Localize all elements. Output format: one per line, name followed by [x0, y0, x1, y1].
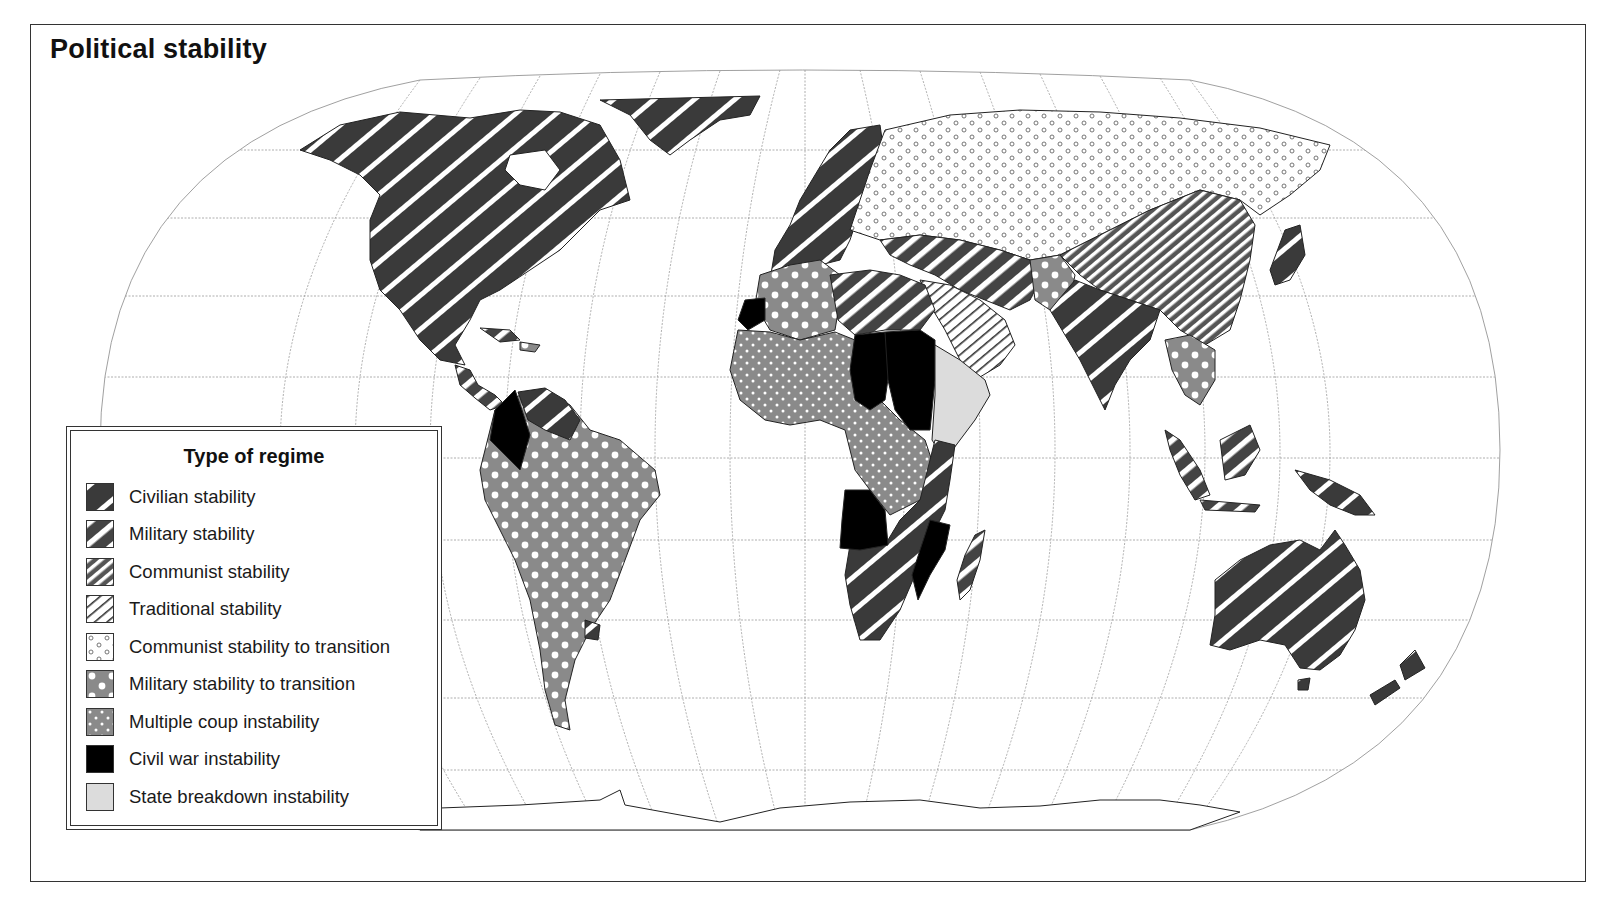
region-north-africa — [830, 270, 935, 335]
region-central-america — [455, 365, 505, 410]
legend-item-traditional-stability: Traditional stability — [71, 591, 437, 629]
civilian-stability-swatch-icon — [86, 483, 114, 511]
region-japan — [1270, 225, 1305, 285]
communist-stability-swatch-icon — [86, 558, 114, 586]
legend-item-multiple-coup-instability: Multiple coup instability — [71, 703, 437, 741]
legend: Type of regime Civilian stability Milita… — [66, 426, 442, 830]
region-antarctica — [420, 790, 1240, 830]
region-indochina — [1165, 335, 1215, 405]
legend-item-military-stability-to-transition: Military stability to transition — [71, 666, 437, 704]
region-indonesia — [1165, 430, 1210, 500]
state-breakdown-swatch-icon — [86, 783, 114, 811]
region-nw-africa — [755, 260, 840, 340]
legend-item-civilian-stability: Civilian stability — [71, 478, 437, 516]
traditional-stability-swatch-icon — [86, 595, 114, 623]
legend-item-communist-stability-to-transition: Communist stability to transition — [71, 628, 437, 666]
region-north-america — [300, 110, 630, 365]
military-transition-swatch-icon — [86, 670, 114, 698]
region-new-zealand — [1370, 650, 1425, 705]
legend-item-state-breakdown-instability: State breakdown instability — [71, 778, 437, 816]
military-stability-swatch-icon — [86, 520, 114, 548]
civil-war-swatch-icon — [86, 745, 114, 773]
land-masses — [300, 96, 1425, 830]
legend-item-communist-stability: Communist stability — [71, 553, 437, 591]
legend-title: Type of regime — [71, 445, 437, 468]
legend-item-civil-war-instability: Civil war instability — [71, 741, 437, 779]
legend-item-military-stability: Military stability — [71, 516, 437, 554]
multiple-coup-swatch-icon — [86, 708, 114, 736]
region-australia — [1210, 530, 1365, 670]
region-chad — [850, 332, 890, 410]
region-western-sahara — [738, 298, 765, 330]
region-papua — [1295, 470, 1375, 515]
region-greenland — [600, 96, 760, 155]
region-madagascar — [957, 530, 985, 600]
communist-transition-swatch-icon — [86, 633, 114, 661]
